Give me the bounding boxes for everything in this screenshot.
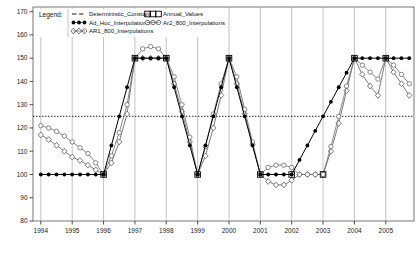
legend-item-label: Ar2_800_Interpolations — [163, 20, 225, 26]
legend-item-label: Ad_Hoc_Interpolations — [89, 20, 150, 26]
data-point-marker — [282, 173, 286, 177]
data-point-marker — [157, 56, 161, 60]
data-point-marker — [78, 146, 82, 150]
data-point-marker — [251, 144, 255, 148]
data-point-marker — [94, 161, 98, 165]
data-point-marker — [149, 56, 153, 60]
data-point-marker — [125, 85, 129, 89]
data-point-marker — [47, 173, 51, 177]
chart-container: 1994199519961997199819992000200120022003… — [0, 0, 419, 253]
data-point-marker — [39, 173, 43, 177]
data-point-marker — [400, 56, 404, 60]
data-point-marker — [407, 82, 411, 86]
y-tick-label: 110 — [17, 148, 28, 155]
x-tick-label: 2000 — [222, 227, 237, 234]
data-point-marker — [313, 172, 317, 176]
y-tick-label: 90 — [20, 194, 28, 201]
data-point-marker — [172, 85, 176, 89]
y-tick-label: 80 — [20, 217, 28, 224]
data-point-marker — [258, 173, 262, 177]
x-tick-label: 1995 — [65, 227, 80, 234]
legend-item-label: Annual_Values — [163, 11, 203, 17]
data-point-marker — [321, 172, 325, 176]
x-tick-label: 2003 — [316, 227, 331, 234]
data-point-marker — [353, 56, 357, 60]
data-point-marker — [39, 123, 43, 127]
data-point-marker — [266, 165, 270, 169]
data-point-marker — [148, 44, 152, 48]
legend-title: Legend: — [39, 11, 63, 19]
data-point-marker — [298, 158, 302, 162]
x-tick-label: 2002 — [284, 227, 299, 234]
data-point-marker — [62, 173, 66, 177]
x-tick-label: 2001 — [253, 227, 268, 234]
y-tick-label: 100 — [17, 171, 28, 178]
data-point-marker — [204, 144, 208, 148]
data-point-marker — [274, 173, 278, 177]
x-tick-label: 2004 — [347, 227, 362, 234]
data-point-marker — [290, 173, 294, 177]
data-point-marker — [392, 56, 396, 60]
data-point-marker — [227, 56, 231, 60]
data-point-marker — [384, 56, 388, 60]
data-point-marker — [337, 114, 341, 118]
data-point-marker — [180, 102, 184, 106]
data-point-marker — [133, 56, 137, 60]
data-point-marker — [368, 56, 372, 60]
data-point-marker — [109, 154, 113, 158]
data-point-marker — [290, 165, 294, 169]
data-point-marker — [70, 140, 74, 144]
legend-item-label: AR1_800_Interpolations — [89, 28, 153, 34]
data-point-marker — [54, 129, 58, 133]
data-point-marker — [407, 56, 411, 60]
data-point-marker — [196, 173, 200, 177]
data-point-marker — [360, 63, 364, 67]
data-point-marker — [86, 173, 90, 177]
data-point-marker — [86, 151, 90, 155]
x-tick-label: 2005 — [379, 227, 394, 234]
data-point-marker — [94, 173, 98, 177]
data-point-marker — [109, 144, 113, 148]
data-point-marker — [188, 144, 192, 148]
data-point-marker — [117, 130, 121, 134]
plot-frame — [33, 7, 414, 221]
data-point-marker — [266, 173, 270, 177]
data-point-marker — [211, 114, 215, 118]
y-tick-label: 120 — [17, 124, 28, 131]
y-tick-label: 150 — [17, 54, 28, 61]
data-point-marker — [164, 56, 168, 60]
data-point-marker — [117, 114, 121, 118]
data-point-marker — [141, 47, 145, 51]
data-point-marker — [243, 114, 247, 118]
data-point-marker — [125, 102, 129, 106]
data-point-marker — [337, 85, 341, 89]
data-point-marker — [399, 72, 403, 76]
x-tick-label: 1996 — [96, 227, 111, 234]
data-point-marker — [360, 56, 364, 60]
data-point-marker — [305, 144, 309, 148]
data-point-marker — [235, 75, 239, 79]
data-point-marker — [219, 85, 223, 89]
x-tick-label: 1998 — [159, 227, 174, 234]
data-point-marker — [329, 144, 333, 148]
data-point-marker — [305, 172, 309, 176]
data-point-marker — [345, 71, 349, 75]
data-point-marker — [235, 85, 239, 89]
data-point-marker — [102, 173, 106, 177]
data-point-marker — [282, 163, 286, 167]
data-point-marker — [172, 75, 176, 79]
x-tick-label: 1997 — [128, 227, 143, 234]
data-point-marker — [141, 56, 145, 60]
data-point-marker — [321, 114, 325, 118]
data-point-marker — [368, 70, 372, 74]
y-tick-label: 130 — [17, 101, 28, 108]
data-point-marker — [180, 114, 184, 118]
data-point-marker — [344, 84, 348, 88]
data-point-marker — [297, 172, 301, 176]
data-point-marker — [376, 77, 380, 81]
data-point-marker — [62, 134, 66, 138]
data-point-marker — [78, 173, 82, 177]
legend-item-label: Deterministic_Constant — [89, 11, 151, 17]
data-point-marker — [313, 129, 317, 133]
x-tick-label: 1999 — [190, 227, 205, 234]
